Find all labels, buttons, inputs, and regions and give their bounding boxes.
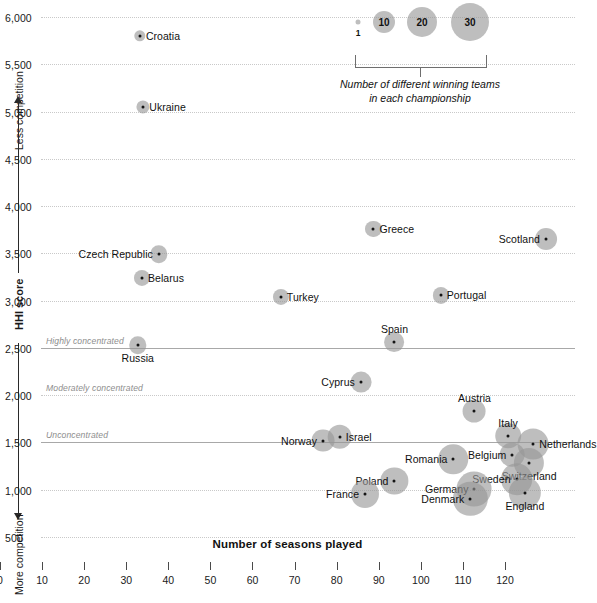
data-point-label: Cyprus xyxy=(321,376,355,388)
x-tick-mark-30 xyxy=(126,562,127,570)
y-tick-4500: 4,500 xyxy=(0,154,36,166)
data-point-label: Czech Republic xyxy=(79,248,153,260)
data-point-label: Romania xyxy=(405,453,447,465)
legend-caption-line1: Number of different winning teams xyxy=(340,77,500,91)
data-point-marker xyxy=(473,410,476,413)
y-tick-label: 3,000 xyxy=(0,296,32,308)
gridline-4000 xyxy=(41,206,575,207)
data-point-marker xyxy=(338,435,341,438)
data-point-label: France xyxy=(326,488,359,500)
legend-brace-stem xyxy=(420,67,421,77)
legend-caption: Number of different winning teams in eac… xyxy=(340,77,500,105)
threshold-label-highly-concentrated: Highly concentrated xyxy=(46,336,124,346)
data-point-marker xyxy=(279,296,282,299)
data-point-marker xyxy=(364,492,367,495)
x-tick-label-90: 90 xyxy=(373,574,385,586)
x-tick-mark-110 xyxy=(463,562,464,570)
data-point-label: Greece xyxy=(379,223,414,235)
x-tick-label-70: 70 xyxy=(289,574,301,586)
data-point-label: Italy xyxy=(498,417,518,429)
y-tick-label: 4,000 xyxy=(0,201,32,213)
data-point-marker xyxy=(544,238,547,241)
data-point-label: Austria xyxy=(458,392,491,404)
y-tick-label: 5,500 xyxy=(0,59,32,71)
y-tick-2500: 2,500 xyxy=(0,343,36,355)
y-tick-5000: 5,000 xyxy=(0,107,36,119)
data-point-marker xyxy=(372,227,375,230)
legend-bubble-1 xyxy=(356,20,361,25)
data-point-marker xyxy=(452,458,455,461)
data-point-marker xyxy=(532,443,535,446)
data-point-marker xyxy=(528,462,531,465)
x-tick-label-120: 120 xyxy=(496,574,514,586)
x-tick-mark-80 xyxy=(337,562,338,570)
data-point-label: England xyxy=(506,500,545,512)
y-axis-up-arrow xyxy=(14,96,22,103)
legend-brace xyxy=(355,55,487,68)
y-tick-3500: 3,500 xyxy=(0,248,36,260)
threshold-label-unconcentrated: Unconcentrated xyxy=(46,430,108,440)
data-point-label: Portugal xyxy=(447,289,487,301)
y-tick-label: 1,500 xyxy=(0,437,32,449)
y-tick-3000: 3,000 xyxy=(0,296,36,308)
x-tick-label-10: 10 xyxy=(36,574,48,586)
data-point-label: Belgium xyxy=(468,449,506,461)
legend-bubble-label-20: 20 xyxy=(416,17,427,28)
x-tick-label-60: 60 xyxy=(247,574,259,586)
gridline-2000 xyxy=(41,395,575,396)
data-point-marker xyxy=(140,276,143,279)
y-tick-label: 6,000 xyxy=(0,12,32,24)
data-point-label: Ukraine xyxy=(149,101,186,113)
legend-bubble-label-30: 30 xyxy=(464,17,475,28)
x-tick-mark-50 xyxy=(210,562,211,570)
x-tick-label-20: 20 xyxy=(78,574,90,586)
y-tick-label: 5,000 xyxy=(0,107,32,119)
legend-bubble-label-10: 10 xyxy=(378,17,389,28)
y-tick-6000: 6,000 xyxy=(0,12,36,24)
x-tick-mark-10 xyxy=(42,562,43,570)
y-tick-4000: 4,000 xyxy=(0,201,36,213)
gridline-5500 xyxy=(41,64,575,65)
threshold-line-2500 xyxy=(41,348,575,349)
data-point-label: Scotland xyxy=(499,233,540,245)
gridline-6000 xyxy=(41,17,575,18)
data-point-marker xyxy=(393,480,396,483)
data-point-marker xyxy=(138,34,141,37)
data-point-marker xyxy=(157,253,160,256)
y-tick-1500: 1,500 xyxy=(0,437,36,449)
data-point-marker xyxy=(321,439,324,442)
y-tick-label: 1,000 xyxy=(0,485,32,497)
x-axis-title: Number of seasons played xyxy=(0,538,575,550)
y-tick-label: 2,000 xyxy=(0,390,32,402)
y-tick-label: 4,500 xyxy=(0,154,32,166)
data-point-marker xyxy=(523,491,526,494)
data-point-label: Denmark xyxy=(421,493,464,505)
gridline-5000 xyxy=(41,112,575,113)
data-point-marker xyxy=(507,434,510,437)
x-tick-mark-60 xyxy=(252,562,253,570)
data-point-marker xyxy=(142,105,145,108)
data-point-label: Turkey xyxy=(287,291,319,303)
data-point-label: Croatia xyxy=(146,30,180,42)
data-point-label: Israel xyxy=(346,431,372,443)
data-point-marker xyxy=(393,341,396,344)
y-axis-bottom-annotation: More competition xyxy=(13,514,25,595)
y-tick-label: 2,500 xyxy=(0,343,32,355)
data-point-label: Netherlands xyxy=(539,438,596,450)
gridline-4500 xyxy=(41,159,575,160)
x-tick-label-30: 30 xyxy=(120,574,132,586)
threshold-label-moderately-concentrated: Moderately concentrated xyxy=(46,383,143,393)
x-tick-mark-40 xyxy=(168,562,169,570)
y-tick-label: 3,500 xyxy=(0,248,32,260)
data-point-label: Spain xyxy=(381,323,408,335)
data-point-label: Belarus xyxy=(148,272,184,284)
x-tick-label-50: 50 xyxy=(205,574,217,586)
data-point-label: Norway xyxy=(281,435,317,447)
y-tick-1000: 1,000 xyxy=(0,485,36,497)
x-tick-mark-0 xyxy=(0,562,1,570)
x-tick-label-100: 100 xyxy=(412,574,430,586)
data-point-marker xyxy=(511,453,514,456)
x-tick-mark-70 xyxy=(295,562,296,570)
x-tick-mark-120 xyxy=(505,562,506,570)
data-point-marker xyxy=(439,294,442,297)
